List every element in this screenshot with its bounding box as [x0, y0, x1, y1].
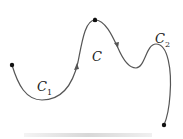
arrow-icon [114, 42, 119, 48]
start-point [10, 63, 14, 67]
junction-point [93, 18, 97, 22]
label-c1: C1 [37, 80, 52, 97]
label-c2: C2 [155, 32, 170, 49]
label-c: C [92, 50, 102, 63]
curve-diagram [0, 0, 183, 139]
end-point [162, 123, 166, 127]
curve-c1 [12, 20, 95, 100]
arrow-icon [74, 63, 79, 70]
shadow-bar [24, 133, 152, 137]
